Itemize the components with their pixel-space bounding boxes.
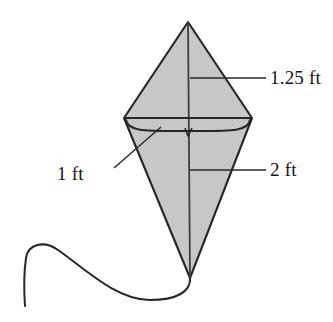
dimension-label-upper-right: 1.25 ft <box>270 68 321 87</box>
dimension-label-left: 1 ft <box>57 164 84 183</box>
kite-figure: 1.25 ft 2 ft 1 ft <box>0 0 333 322</box>
kite-tail <box>24 244 190 306</box>
dimension-label-lower-right: 2 ft <box>270 160 297 179</box>
